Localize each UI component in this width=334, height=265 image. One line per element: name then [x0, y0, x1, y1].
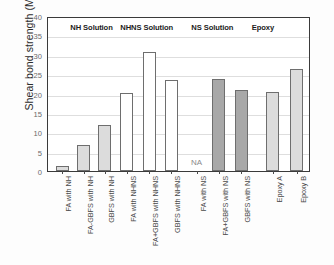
bar [98, 125, 111, 172]
x-tick-mark [84, 171, 85, 174]
x-tick-mark [149, 171, 150, 174]
x-tick-label: FA with NH [64, 176, 73, 212]
x-tick-label: FA+GBFS with NHNS [151, 176, 160, 246]
x-tick-label: FA with NS [199, 176, 208, 211]
bar [266, 92, 279, 171]
gridline [48, 37, 309, 38]
x-tick-label: GBFS with NH [107, 176, 116, 223]
x-tick-mark [127, 171, 128, 174]
bar [165, 80, 178, 171]
x-tick-mark [171, 171, 172, 174]
x-tick-mark [62, 171, 63, 174]
x-tick-label: GBFS with NHNS [173, 176, 182, 233]
x-tick-mark [219, 171, 220, 174]
x-tick-label: Epoxy A [275, 176, 284, 202]
x-tick-mark [273, 171, 274, 174]
x-tick-label: GBFS with NS [243, 176, 252, 222]
y-tick-label: 40 [22, 13, 42, 22]
group-header-ns-solution: NS Solution [191, 23, 233, 32]
x-tick-mark [197, 171, 198, 174]
x-tick-label: FA+GBFS with NS [221, 176, 230, 235]
y-tick-label: 25 [22, 71, 42, 80]
gridline [48, 76, 309, 77]
y-tick-label: 5 [22, 148, 42, 157]
plot-area: NH SolutionNHNS SolutionNS SolutionEpoxy… [47, 17, 310, 172]
y-tick-label: 10 [22, 129, 42, 138]
x-tick-label: FA-GBFS with NH [86, 176, 95, 234]
y-tick-label: 15 [22, 109, 42, 118]
chart-figure: Shear bond strength (MPa) 05101520253035… [0, 0, 334, 265]
y-tick-label: 0 [22, 168, 42, 177]
group-header-epoxy: Epoxy [252, 23, 274, 32]
group-header-nhns-solution: NHNS Solution [120, 23, 173, 32]
x-tick-label: Epoxy B [299, 176, 308, 203]
gridline [48, 57, 309, 58]
bar [77, 145, 90, 171]
group-header-nh-solution: NH Solution [70, 23, 112, 32]
y-tick-label: 30 [22, 51, 42, 60]
x-tick-label: FA with NHNS [129, 176, 138, 222]
na-annotation: NA [191, 158, 202, 167]
bar [212, 79, 225, 171]
y-tick-label: 20 [22, 90, 42, 99]
x-tick-mark [241, 171, 242, 174]
bar [235, 90, 248, 171]
x-tick-mark [105, 171, 106, 174]
bar [120, 93, 133, 171]
x-tick-mark [297, 171, 298, 174]
bar [143, 52, 156, 171]
bar [290, 69, 303, 171]
y-tick-label: 35 [22, 32, 42, 41]
